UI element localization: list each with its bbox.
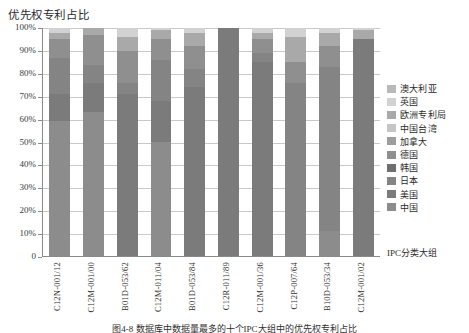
- bar-segment[interactable]: [117, 83, 138, 94]
- plot-area: [42, 28, 380, 257]
- bar-segment[interactable]: [353, 39, 374, 256]
- y-axis-tick-mark: [38, 257, 42, 258]
- x-axis-tick-label: C12M-011/04: [153, 262, 167, 312]
- y-axis-tick-label: 10%: [0, 228, 36, 238]
- bar-column[interactable]: [245, 28, 279, 256]
- bar-segment[interactable]: [252, 33, 273, 40]
- bar-segment[interactable]: [252, 62, 273, 256]
- x-axis-tick-label: C12M-001/02: [356, 262, 370, 312]
- bar-column[interactable]: [144, 28, 178, 256]
- bar-column[interactable]: [110, 28, 144, 256]
- stacked-bar[interactable]: [184, 28, 205, 256]
- bar-segment[interactable]: [319, 67, 340, 231]
- bar-segment[interactable]: [184, 87, 205, 256]
- bar-segment[interactable]: [184, 69, 205, 87]
- bar-column[interactable]: [313, 28, 347, 256]
- bar-segment[interactable]: [285, 62, 306, 83]
- bar-column[interactable]: [43, 28, 77, 256]
- bar-column[interactable]: [346, 28, 380, 256]
- bar-column[interactable]: [279, 28, 313, 256]
- bar-column[interactable]: [77, 28, 111, 256]
- x-axis-tick-label: C12R-011/89: [221, 262, 235, 310]
- y-axis-tick-label: 40%: [0, 159, 36, 169]
- stacked-bar[interactable]: [285, 28, 306, 256]
- stacked-bar[interactable]: [252, 28, 273, 256]
- bar-segment[interactable]: [49, 58, 70, 94]
- stacked-bar[interactable]: [83, 28, 104, 256]
- x-axis-tick-label: C12M-001/00: [86, 262, 100, 312]
- y-axis-tick-label: 20%: [0, 205, 36, 215]
- bar-segment[interactable]: [151, 60, 172, 101]
- bar-segment[interactable]: [319, 46, 340, 67]
- stacked-bar[interactable]: [218, 28, 239, 256]
- x-axis-tick-label: C12N-001/12: [52, 262, 66, 311]
- bar-segment[interactable]: [285, 83, 306, 256]
- y-axis-tick-label: 50%: [0, 137, 36, 147]
- bar-segment[interactable]: [252, 39, 273, 53]
- stacked-bar[interactable]: [353, 28, 374, 256]
- bar-segment[interactable]: [151, 30, 172, 39]
- bar-segment[interactable]: [83, 112, 104, 256]
- bar-segment[interactable]: [285, 37, 306, 62]
- legend-item[interactable]: 欧洲专利局: [387, 108, 469, 121]
- bar-segment[interactable]: [49, 33, 70, 40]
- legend-item-label: 加拿大: [400, 135, 428, 148]
- bar-column[interactable]: [212, 28, 246, 256]
- bar-segment[interactable]: [151, 142, 172, 256]
- x-axis-tick-label: C12P-007/64: [289, 262, 303, 310]
- legend-item[interactable]: 加拿大: [387, 135, 469, 148]
- bar-segment[interactable]: [353, 30, 374, 39]
- legend-item[interactable]: 韩国: [387, 161, 469, 174]
- legend-item[interactable]: 英国: [387, 95, 469, 108]
- bar-segment[interactable]: [49, 121, 70, 256]
- bar-segment[interactable]: [285, 28, 306, 37]
- legend-color-swatch: [387, 137, 396, 145]
- y-axis-tick-label: 100%: [0, 22, 36, 32]
- legend-item[interactable]: 美国: [387, 188, 469, 201]
- bar-segment[interactable]: [151, 101, 172, 142]
- y-axis-tick-label: 30%: [0, 182, 36, 192]
- x-axis-tick-label: B01D-053/84: [187, 262, 201, 311]
- y-axis-tick-label: 0: [0, 251, 36, 261]
- bar-segment[interactable]: [117, 37, 138, 51]
- bar-segment[interactable]: [252, 53, 273, 62]
- bar-segment[interactable]: [49, 94, 70, 121]
- stacked-bar[interactable]: [117, 28, 138, 256]
- legend-item[interactable]: 澳大利亚: [387, 82, 469, 95]
- bar-segment[interactable]: [83, 83, 104, 113]
- y-axis-tick-label: 60%: [0, 114, 36, 124]
- x-axis-tick-label: B10D-053/34: [322, 262, 336, 311]
- bar-segment[interactable]: [184, 33, 205, 47]
- stacked-bar[interactable]: [319, 28, 340, 256]
- legend-item[interactable]: 中国台湾: [387, 122, 469, 135]
- legend-item-label: 中国台湾: [400, 122, 437, 135]
- bar-segment[interactable]: [218, 28, 239, 256]
- bar-segment[interactable]: [49, 39, 70, 57]
- x-axis-tick-label: C12M-001/36: [255, 262, 269, 312]
- bar-segment[interactable]: [319, 33, 340, 47]
- bar-segment[interactable]: [117, 51, 138, 83]
- legend-item[interactable]: 日本: [387, 174, 469, 187]
- bar-segment[interactable]: [117, 28, 138, 37]
- chart-title: 优先权专利占比: [8, 6, 89, 22]
- stacked-bar[interactable]: [49, 28, 70, 256]
- bar-segment[interactable]: [83, 65, 104, 83]
- y-axis-tick-label: 90%: [0, 45, 36, 55]
- legend-color-swatch: [387, 111, 396, 119]
- legend-item-label: 澳大利亚: [400, 82, 437, 95]
- legend-item[interactable]: 中国: [387, 201, 469, 214]
- bar-segment[interactable]: [184, 46, 205, 69]
- legend-item-label: 中国: [400, 201, 418, 214]
- x-axis-tick-label: B01D-053/62: [120, 262, 134, 311]
- bar-column[interactable]: [178, 28, 212, 256]
- bar-segment[interactable]: [319, 231, 340, 256]
- legend: 澳大利亚英国欧洲专利局中国台湾加拿大德国韩国日本美国中国: [387, 82, 469, 214]
- legend-item-label: 欧洲专利局: [400, 108, 446, 121]
- bar-segment[interactable]: [117, 94, 138, 256]
- bar-segment[interactable]: [151, 39, 172, 60]
- bar-segment[interactable]: [83, 28, 104, 35]
- stacked-bar[interactable]: [151, 28, 172, 256]
- legend-color-swatch: [387, 124, 396, 132]
- legend-item[interactable]: 德国: [387, 148, 469, 161]
- bar-segment[interactable]: [83, 35, 104, 65]
